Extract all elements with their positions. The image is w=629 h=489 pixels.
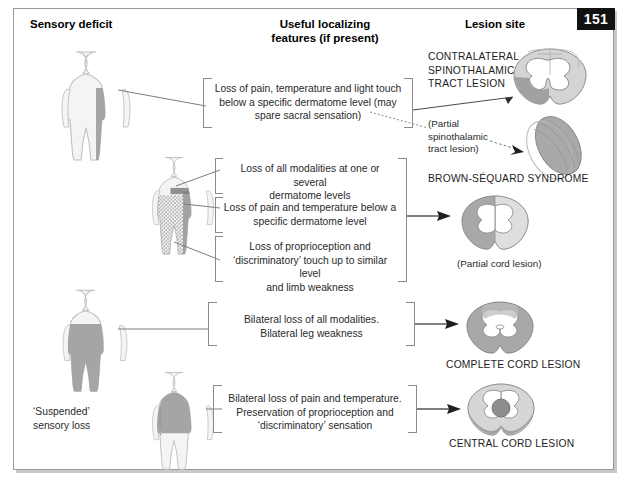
cord-cross-section-central-cord bbox=[463, 382, 539, 436]
feature-line: Loss of pain and temperature below a bbox=[223, 201, 397, 215]
feature-text-pain-temperature: Loss of pain and temperature below a spe… bbox=[223, 201, 397, 228]
feature-line: Preservation of proprioception and bbox=[222, 406, 408, 420]
lesion-caption-line: (Partial bbox=[428, 118, 488, 131]
feature-line: Bilateral leg weakness bbox=[217, 327, 406, 341]
bracket-left-row2a bbox=[215, 158, 223, 194]
feature-text-all-modalities: Loss of all modalities at one or several… bbox=[223, 162, 397, 203]
bracket-left-row2b bbox=[215, 197, 223, 233]
feature-line: Bilateral loss of all modalities. bbox=[217, 313, 406, 327]
connector-dashed-partial-spinothalamic bbox=[370, 110, 432, 132]
feature-line: ‘discriminatory’ sensation bbox=[222, 419, 408, 433]
note-line: sensory loss bbox=[33, 419, 90, 433]
lesion-caption-line: spinothalamic bbox=[428, 131, 488, 144]
column-header-useful-localizing: Useful localizing features (if present) bbox=[230, 17, 420, 45]
lesion-caption-partial-spinothalamic: (Partial spinothalamic tract lesion) bbox=[428, 118, 488, 156]
arrow-to-complete-cord-lesion bbox=[415, 317, 463, 331]
lesion-label-complete-cord: COMPLETE CORD LESION bbox=[446, 358, 580, 372]
column-header-useful-line1: Useful localizing bbox=[230, 17, 420, 31]
feature-line: Loss of pain, temperature and light touc… bbox=[212, 82, 404, 96]
bracket-left-row2c bbox=[215, 236, 223, 282]
deficit-shading-bilateral bbox=[63, 324, 127, 392]
cord-cross-section-partial-cord bbox=[457, 194, 533, 252]
column-header-useful-line2: features (if present) bbox=[230, 31, 420, 45]
cord-cross-section-complete-cord bbox=[463, 300, 537, 354]
feature-line: specific dermatome level bbox=[223, 215, 397, 229]
feature-line: and limb weakness bbox=[223, 281, 397, 295]
lesion-label-central-cord: CENTRAL CORD LESION bbox=[449, 437, 574, 451]
bracket-right-row4 bbox=[408, 385, 417, 433]
bracket-left-row4 bbox=[213, 385, 222, 433]
arrow-to-central-cord-lesion bbox=[417, 402, 465, 416]
feature-line: ‘discriminatory’ touch up to similar lev… bbox=[223, 254, 397, 281]
page-number-badge: 151 bbox=[577, 8, 615, 30]
column-header-sensory-deficit: Sensory deficit bbox=[30, 17, 112, 31]
bracket-right-row2-group bbox=[398, 158, 407, 282]
note-line: ‘Suspended’ bbox=[33, 405, 90, 419]
deficit-shading-suspended-cape bbox=[159, 392, 209, 433]
lesion-volume-oval-brown-sequard bbox=[518, 110, 604, 178]
feature-line: Bilateral loss of pain and temperature. bbox=[222, 392, 408, 406]
feature-line: below a specific dermatome level (may bbox=[212, 96, 404, 110]
bracket-right-row3 bbox=[406, 302, 415, 346]
bracket-left-row1 bbox=[203, 78, 212, 128]
feature-line: Loss of proprioception and bbox=[223, 240, 397, 254]
bracket-left-row3 bbox=[208, 302, 217, 346]
cord-cross-section-spinothalamic bbox=[508, 46, 592, 108]
feature-text-complete-cord: Bilateral loss of all modalities. Bilate… bbox=[217, 313, 406, 340]
feature-text-central-cord: Bilateral loss of pain and temperature. … bbox=[222, 392, 408, 433]
arrow-to-partial-cord-lesion bbox=[407, 209, 455, 223]
lesion-caption-partial-cord: (Partial cord lesion) bbox=[457, 258, 541, 271]
feature-line: Loss of all modalities at one or several bbox=[223, 162, 397, 189]
lesion-label-line: TRACT LESION bbox=[428, 77, 519, 91]
lesion-shading-central-syrinx bbox=[492, 399, 510, 417]
column-header-lesion-site: Lesion site bbox=[430, 17, 560, 31]
page-root: 151 Sensory deficit Useful localizing fe… bbox=[0, 0, 629, 489]
connector-line-figure1 bbox=[118, 88, 208, 110]
lesion-label-brown-sequard: BROWN-SÉQUARD SYNDROME bbox=[428, 172, 589, 186]
body-figure-complete-cord bbox=[50, 285, 140, 393]
feature-text-proprioception: Loss of proprioception and ‘discriminato… bbox=[223, 240, 397, 294]
lesion-caption-line: tract lesion) bbox=[428, 143, 488, 156]
lesion-label-line: CONTRALATERAL bbox=[428, 50, 519, 64]
connector-line-figure3 bbox=[118, 325, 210, 333]
note-suspended-sensory-loss: ‘Suspended’ sensory loss bbox=[33, 405, 90, 433]
lesion-label-line: SPINOTHALAMIC bbox=[428, 64, 519, 78]
lesion-label-contralateral-spinothalamic: CONTRALATERAL SPINOTHALAMIC TRACT LESION bbox=[428, 50, 519, 91]
